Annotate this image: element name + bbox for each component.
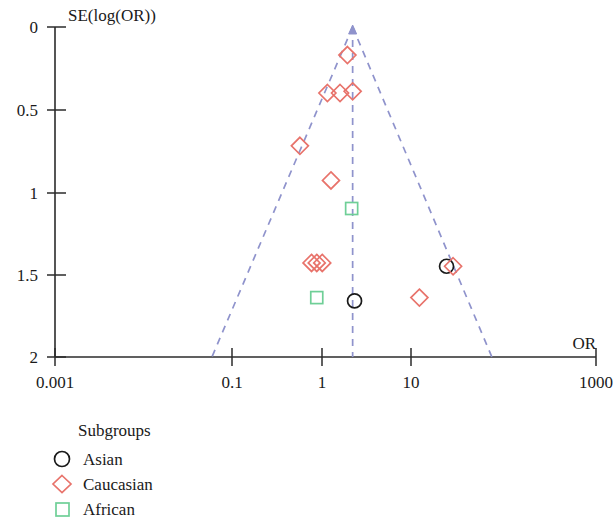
legend-label-asian: Asian (83, 450, 123, 469)
data-point-caucasian-7 (308, 254, 325, 271)
data-point-caucasian-6 (303, 254, 320, 271)
data-point-asian-1 (348, 294, 362, 308)
funnel-plot-figure: 0 0.5 1 1.5 2 SE(log(OR)) 0.001 0.1 1 10… (0, 0, 614, 521)
circle-marker-icon (55, 452, 70, 467)
data-point-asian-0 (440, 259, 454, 273)
x-tick-label-10: 10 (403, 373, 420, 392)
legend: Subgroups Asian Caucasian African (53, 421, 153, 519)
data-markers-group (291, 47, 461, 308)
square-marker-icon (56, 503, 69, 516)
data-point-caucasian-10 (411, 289, 428, 306)
x-axis: 0.001 0.1 1 10 1000 OR (36, 334, 613, 392)
diamond-marker-icon (53, 476, 71, 493)
y-axis: 0 0.5 1 1.5 2 SE(log(OR)) (17, 6, 156, 367)
data-point-african-1 (311, 292, 323, 304)
legend-item-african[interactable]: African (56, 500, 135, 519)
y-tick-label-1: 1 (30, 184, 39, 203)
x-axis-title: OR (572, 334, 596, 353)
data-point-caucasian-8 (314, 254, 331, 271)
x-tick-label-0-1: 0.1 (221, 373, 242, 392)
funnel-plot-svg: 0 0.5 1 1.5 2 SE(log(OR)) 0.001 0.1 1 10… (0, 0, 614, 521)
legend-title: Subgroups (78, 421, 151, 440)
y-axis-title: SE(log(OR)) (68, 6, 156, 25)
funnel-left-boundary (212, 27, 353, 357)
funnel-apex-marker (349, 25, 357, 34)
data-point-african-0 (346, 203, 358, 215)
x-tick-label-1: 1 (318, 373, 327, 392)
data-point-caucasian-5 (322, 172, 339, 189)
legend-label-african: African (83, 500, 135, 519)
legend-item-caucasian[interactable]: Caucasian (53, 475, 153, 494)
legend-item-asian[interactable]: Asian (55, 450, 124, 469)
y-tick-label-0-5: 0.5 (17, 101, 38, 120)
x-tick-label-1000: 1000 (579, 373, 613, 392)
y-tick-label-1-5: 1.5 (17, 266, 38, 285)
y-tick-label-2: 2 (30, 348, 39, 367)
y-tick-label-0: 0 (30, 18, 39, 37)
legend-label-caucasian: Caucasian (83, 475, 153, 494)
x-tick-label-0-001: 0.001 (36, 373, 74, 392)
funnel-right-boundary (353, 27, 492, 357)
